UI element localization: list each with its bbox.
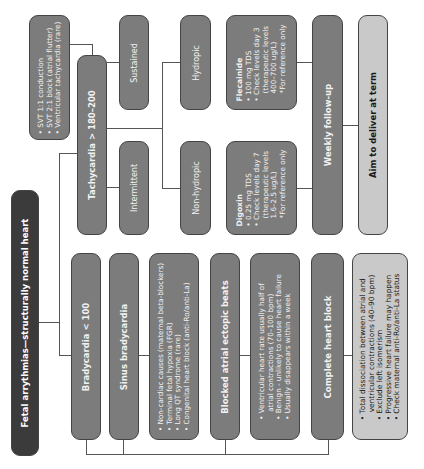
- connector: [70, 44, 92, 45]
- deliver-at-term-node: Aim to deliver at term: [358, 15, 388, 235]
- sinus-bradycardia-node: Sinus bradycardia: [109, 253, 139, 440]
- connector: [86, 454, 329, 455]
- tachycardia-label: Tachycardia > 180–200: [87, 90, 97, 200]
- digoxin-item: Check levels day 7: [253, 150, 262, 227]
- intermittent-label: Intermittent: [130, 164, 139, 212]
- connector: [162, 62, 180, 63]
- complete-heart-block-label: Complete heart block: [323, 295, 333, 398]
- connector: [38, 322, 59, 323]
- digoxin-note: *For reference only: [279, 150, 288, 227]
- root-node: Fetal arrythmias—structurally normal hea…: [11, 190, 39, 456]
- connector: [328, 440, 329, 454]
- connector: [107, 187, 119, 188]
- svt-cause-item: Ventricular tachycardia (rare): [54, 21, 63, 133]
- digoxin-title: Digoxin: [236, 150, 245, 227]
- flecainide-title: Flecainide: [236, 24, 245, 101]
- connector: [162, 188, 180, 189]
- connector: [86, 440, 87, 454]
- connector: [344, 355, 352, 356]
- sustained-node: Sustained: [119, 15, 149, 110]
- connector: [59, 153, 77, 154]
- flecainide-item: Check levels day 3: [253, 24, 262, 101]
- sustained-label: Sustained: [130, 43, 139, 83]
- connector: [343, 125, 358, 126]
- hydropic-node: Hydropic: [180, 15, 211, 110]
- sinus-causes-node: Non-cardiac causes (maternal beta-blocke…: [149, 253, 199, 440]
- connector: [59, 355, 71, 356]
- non-hydropic-node: Non-hydropic: [180, 141, 211, 235]
- connector: [92, 44, 93, 55]
- complete-detail-item: Check maternal anti-Ro/anti-La status: [393, 273, 402, 420]
- blocked-detail-item: Usually disappears within a week: [284, 274, 293, 420]
- weekly-follow-up-label: Weekly follow-up: [323, 84, 333, 166]
- hydropic-label: Hydropic: [191, 45, 200, 81]
- flecainide-node: Flecainide 100 mg TDS Check levels day 3…: [226, 15, 297, 110]
- root-label: Fetal arrythmias—structurally normal hea…: [20, 219, 30, 428]
- non-hydropic-label: Non-hydropic: [191, 161, 200, 214]
- digoxin-node: Digoxin 0.25 mg TDS Check levels day 7 (…: [226, 141, 297, 235]
- deliver-at-term-label: Aim to deliver at term: [368, 72, 378, 178]
- connector: [297, 188, 312, 189]
- bradycardia-node: Bradycardia < 100: [71, 253, 101, 440]
- tachycardia-node: Tachycardia > 180–200: [77, 55, 107, 235]
- connector: [297, 62, 312, 63]
- sinus-bradycardia-label: Sinus bradycardia: [119, 303, 129, 390]
- blocked-ectopic-node: Blocked atrial ectopic beats: [210, 253, 240, 440]
- connector: [107, 62, 119, 63]
- connector: [123, 440, 124, 454]
- complete-heart-block-node: Complete heart block: [311, 253, 344, 440]
- svt-cause-item: SVT 1:1 conduction: [37, 21, 46, 133]
- svt-causes-node: SVT 1:1 conduction SVT 2:1 block (atrial…: [29, 15, 70, 140]
- blocked-ectopic-label: Blocked atrial ectopic beats: [220, 280, 230, 413]
- intermittent-node: Intermittent: [119, 141, 149, 235]
- connector: [59, 153, 60, 356]
- connector: [225, 440, 226, 454]
- connector: [107, 128, 162, 129]
- flecainide-note: *For reference only: [279, 24, 288, 101]
- sinus-cause-item: Congenital heart block (anti-Ro/anti-La): [183, 262, 192, 430]
- weekly-follow-up-node: Weekly follow-up: [312, 15, 343, 235]
- blocked-details-node: Ventricular heart rate usually half of a…: [250, 253, 300, 440]
- bradycardia-label: Bradycardia < 100: [81, 302, 91, 391]
- connector: [139, 355, 149, 356]
- connector: [162, 62, 163, 188]
- connector: [240, 355, 250, 356]
- complete-details-node: Total dissociation between atrial and ve…: [352, 253, 408, 440]
